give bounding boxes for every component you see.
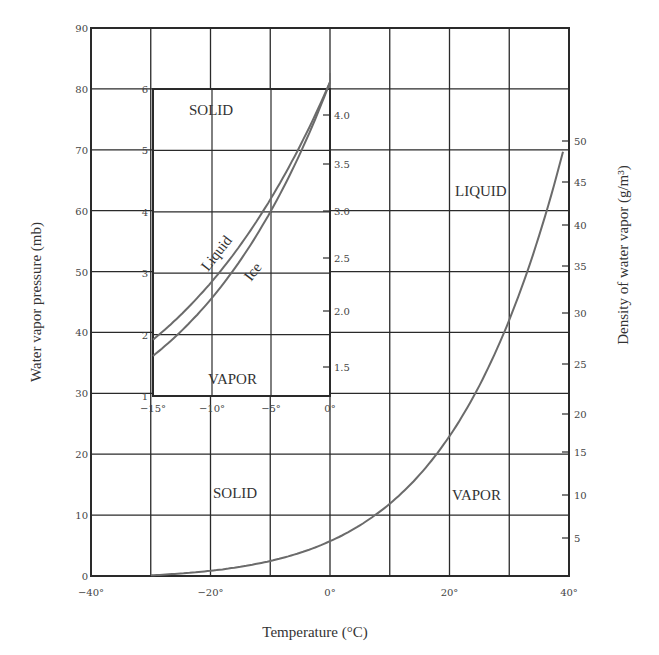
y2-tick-label: 25: [574, 359, 587, 370]
y2-tick-label: 15: [574, 447, 587, 458]
y-tick-label: 20: [75, 449, 88, 460]
inset-y-tick-label: 4: [142, 207, 148, 218]
y2-tick-label: 30: [574, 308, 587, 319]
y2-tick-label: 5: [574, 533, 580, 544]
x-tick-label: −40°: [78, 587, 104, 598]
inset-region-solid: SOLID: [189, 102, 233, 118]
inset-x-tick-label: −10°: [199, 403, 225, 414]
inset-y2-tick-label: 1.5: [334, 362, 350, 373]
inset-y2-tick-label: 4.0: [334, 110, 350, 121]
y-tick-label: 90: [75, 23, 88, 34]
y-tick-label: 70: [75, 145, 88, 156]
x-axis-title: Temperature (°C): [262, 624, 367, 641]
x-tick-label: 40°: [560, 587, 578, 598]
y-axis-title: Water vapor pressure (mb): [28, 222, 45, 382]
inset-chart: 123456−15°−10°−5°0°1.52.02.53.03.54.0: [140, 84, 350, 414]
y2-tick-label: 10: [574, 490, 587, 501]
inset-y-tick-label: 1: [142, 391, 148, 402]
inset-y2-tick-label: 3.5: [334, 159, 350, 170]
inset-y2-tick-label: 3.0: [334, 206, 350, 217]
inset-y-tick-label: 3: [142, 268, 148, 279]
y2-tick-label: 20: [574, 409, 587, 420]
inset-x-tick-label: −15°: [140, 403, 166, 414]
inset-y2-tick-label: 2.0: [334, 306, 350, 317]
y-tick-label: 40: [75, 327, 88, 338]
main-region-liquid: LIQUID: [455, 183, 507, 199]
y-tick-label: 50: [75, 267, 88, 278]
inset-region-vapor: VAPOR: [208, 371, 257, 387]
y2-tick-label: 35: [574, 261, 587, 272]
y2-tick-label: 45: [574, 177, 587, 188]
inset-y2-tick-label: 2.5: [334, 253, 350, 264]
x-tick-label: −20°: [197, 587, 223, 598]
y2-axis-title: Density of water vapor (g/m³): [615, 165, 632, 344]
inset-y-tick-label: 2: [142, 330, 148, 341]
inset-x-tick-label: −5°: [261, 403, 281, 414]
y2-tick-label: 50: [574, 136, 587, 147]
inset-y-tick-label: 5: [142, 145, 148, 156]
y-tick-label: 0: [82, 571, 88, 582]
y2-tick-label: 40: [574, 220, 587, 231]
inset-x-tick-label: 0°: [324, 403, 335, 414]
main-region-solid: SOLID: [213, 485, 257, 501]
x-tick-label: 0°: [324, 587, 335, 598]
x-tick-label: 20°: [441, 587, 459, 598]
vapor-pressure-chart: 123456−15°−10°−5°0°1.52.02.53.03.54.0 01…: [0, 0, 659, 655]
y-tick-label: 30: [75, 388, 88, 399]
main-region-vapor: VAPOR: [452, 487, 501, 503]
y-tick-label: 10: [75, 510, 88, 521]
inset-y-tick-label: 6: [142, 84, 148, 95]
y-tick-label: 80: [75, 84, 88, 95]
y-tick-label: 60: [75, 206, 88, 217]
